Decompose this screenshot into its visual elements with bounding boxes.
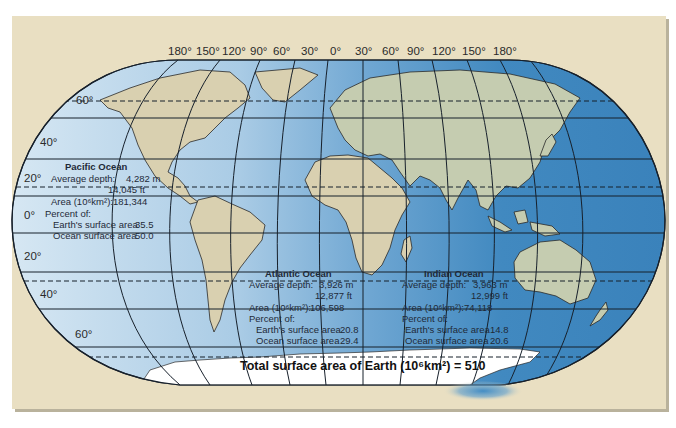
earth-value: 20.8 (340, 324, 359, 335)
lon-label: 150° (462, 45, 486, 57)
earth-value: 35.5 (135, 219, 154, 230)
lat-label: 20° (24, 172, 41, 184)
depth-ft: 12,999 ft (471, 290, 508, 301)
depth-m: 3,926 m (319, 279, 353, 290)
lat-label: 60° (75, 328, 92, 340)
atlantic-ocean-info: Atlantic Ocean Average depth: 3,926 m 12… (249, 268, 359, 346)
ocean-value: 50.0 (135, 230, 154, 241)
lon-label: 120° (222, 45, 246, 57)
print-smudge (443, 381, 523, 401)
area-value: 181,344 (113, 196, 147, 207)
depth-m: 4,282 m (126, 173, 160, 184)
area-value: 106,598 (310, 302, 344, 313)
total-surface-area: Total surface area of Earth (10⁶km²) = 5… (240, 359, 486, 373)
ocean-label: Ocean surface area (53, 230, 137, 241)
depth-ft: 14,045 ft (108, 184, 145, 195)
lon-label: 30° (355, 45, 372, 57)
percent-label: Percent of: (249, 313, 295, 324)
lat-label: 0° (24, 209, 35, 221)
pacific-ocean-info: Pacific Ocean Average depth: 4,282 m 14,… (45, 161, 160, 241)
lon-label: 60° (382, 45, 399, 57)
ocean-value: 29.4 (340, 335, 359, 346)
ocean-name: Pacific Ocean (65, 161, 128, 172)
lon-label: 0° (330, 45, 341, 57)
percent-label: Percent of: (402, 313, 448, 324)
lat-label: 40° (40, 288, 57, 300)
earth-label: Earth's surface area (53, 219, 138, 230)
earth-label: Earth's surface area (256, 324, 341, 335)
ocean-name: Indian Ocean (424, 268, 484, 279)
ocean-label: Ocean surface area (405, 335, 489, 346)
lon-label: 60° (273, 45, 290, 57)
world-map: 180° 150° 120° 90° 60° 30° 0° 30° 60° 90… (0, 0, 676, 428)
ocean-label: Ocean surface area (256, 335, 340, 346)
area-label: Area (10⁶km²): (249, 302, 311, 313)
lat-label: 40° (40, 136, 57, 148)
percent-label: Percent of: (45, 208, 91, 219)
area-label: Area (10⁶km²): (51, 196, 113, 207)
lon-label: 120° (432, 45, 456, 57)
longitude-labels: 180° 150° 120° 90° 60° 30° 0° 30° 60° 90… (168, 45, 517, 57)
ocean-name: Atlantic Ocean (265, 268, 332, 279)
depth-m: 3,963 m (473, 279, 507, 290)
lon-label: 150° (196, 45, 220, 57)
lon-label: 30° (301, 45, 318, 57)
depth-ft: 12,877 ft (315, 290, 352, 301)
lat-label: 20° (24, 250, 41, 262)
earth-value: 14.8 (490, 324, 509, 335)
lon-label: 180° (168, 45, 192, 57)
depth-label: Average depth: (249, 279, 313, 290)
lon-label: 90° (250, 45, 267, 57)
area-label: Area (10⁶km²): (402, 302, 464, 313)
earth-label: Earth's surface area (405, 324, 490, 335)
lat-label: 60° (76, 94, 93, 106)
depth-label: Average depth: (402, 279, 466, 290)
depth-label: Average depth: (51, 173, 115, 184)
area-value: 74,118 (464, 302, 492, 313)
ocean-value: 20.6 (490, 335, 509, 346)
lon-label: 90° (407, 45, 424, 57)
lon-label: 180° (493, 45, 517, 57)
